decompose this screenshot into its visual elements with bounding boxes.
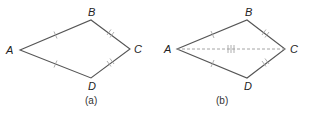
vertex-label-b: B [245,6,252,18]
vertex-label-c: C [134,43,142,55]
vertex-label-d: D [88,80,96,92]
figure-b: A B C D (b) [163,6,298,106]
vertex-label-b: B [88,6,95,18]
kite-diagrams: A B C D (a) A B C D (b) [0,0,309,119]
caption-a: (a) [85,95,97,106]
vertex-label-c: C [290,43,298,55]
vertex-label-a: A [5,44,13,56]
kite-a-outline [20,20,130,78]
vertex-label-d: D [244,80,252,92]
figure-a: A B C D (a) [5,6,142,106]
caption-b: (b) [216,95,228,106]
vertex-label-a: A [163,43,171,55]
